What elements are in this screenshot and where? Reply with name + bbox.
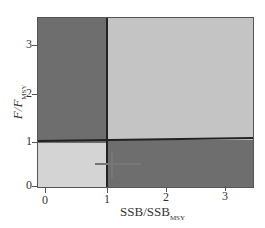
x-tick-2: 2	[159, 190, 173, 205]
crosshair-marker-horizontal	[95, 163, 141, 165]
quadrant-lower-left	[38, 143, 107, 188]
y-tick-3: 3	[18, 37, 32, 52]
y-tickmark-1	[32, 142, 37, 143]
quadrant-upper-left	[38, 18, 107, 143]
y-axis-label-main: F/F	[10, 100, 25, 120]
x-axis-label-main: SSB/SSB	[120, 204, 170, 219]
x-axis-label-sub: MSY	[170, 214, 185, 222]
y-tick-0: 0	[18, 178, 32, 193]
y-tickmark-2	[32, 94, 37, 95]
x-tick-3: 3	[218, 189, 232, 204]
crosshair-marker-vertical	[111, 151, 113, 178]
plot-area	[37, 17, 254, 188]
quadrant-upper-right	[107, 18, 254, 140]
x-tick-1: 1	[100, 192, 114, 207]
y-tick-1: 1	[18, 134, 32, 149]
y-axis-label-sub: MSY	[20, 84, 28, 99]
y-tickmark-0	[32, 186, 37, 187]
y-tickmark-3	[32, 45, 37, 46]
x-axis-label: SSB/SSBMSY	[120, 204, 185, 222]
x-tick-0: 0	[38, 193, 52, 208]
y-axis-label: F/FMSY	[10, 77, 28, 127]
